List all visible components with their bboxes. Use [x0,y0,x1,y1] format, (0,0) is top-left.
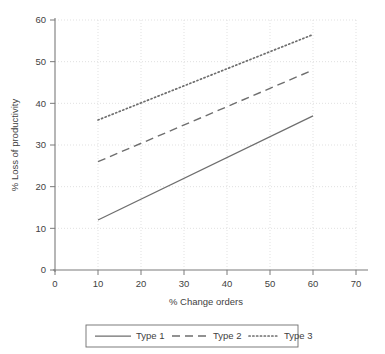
x-tick-label-70: 70 [351,278,362,289]
y-tick-label-20: 20 [35,181,46,192]
series-line-type-2 [98,70,313,162]
y-axis-tick-labels: 0 10 20 30 40 50 60 [35,14,46,275]
x-axis-tick-labels: 0 10 20 30 40 50 60 70 [52,278,361,289]
series-line-type-1 [98,116,313,220]
grid-lines [55,20,356,270]
y-tick-label-40: 40 [35,98,46,109]
x-tick-label-40: 40 [222,278,233,289]
x-tick-label-60: 60 [308,278,319,289]
x-tick-label-30: 30 [179,278,190,289]
legend-label-type-2: Type 2 [213,330,242,341]
x-axis-title: % Change orders [169,296,243,307]
y-axis-title: % Loss of productivity [9,99,20,192]
y-tick-label-0: 0 [41,264,46,275]
x-tick-label-20: 20 [136,278,147,289]
legend-label-type-1: Type 1 [136,330,165,341]
x-tick-label-50: 50 [265,278,276,289]
data-series [98,35,313,220]
x-axis-ticks [55,270,356,275]
y-axis-ticks [50,20,55,270]
y-tick-label-10: 10 [35,223,46,234]
x-tick-label-10: 10 [93,278,104,289]
x-tick-label-0: 0 [52,278,57,289]
legend-label-type-3: Type 3 [284,330,313,341]
series-line-type-3 [98,35,313,120]
y-tick-label-50: 50 [35,56,46,67]
chart-figure: 0 10 20 30 40 50 60 0 10 20 30 40 50 60 [0,0,385,354]
y-tick-label-60: 60 [35,14,46,25]
y-tick-label-30: 30 [35,139,46,150]
chart-legend: Type 1 Type 2 Type 3 [86,325,313,347]
line-chart: 0 10 20 30 40 50 60 0 10 20 30 40 50 60 [0,0,385,354]
